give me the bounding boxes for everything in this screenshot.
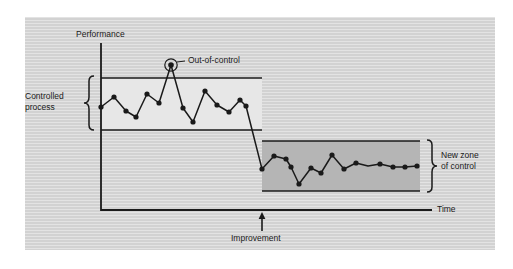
improvement-arrow [259,212,266,231]
controlled-process-label-line2: process [25,102,55,112]
improvement-label: Improvement [231,233,281,244]
new-zone-brace [427,140,437,192]
control-chart [0,0,513,269]
figure-container: Performance Out-of-control Controlled pr… [0,0,513,269]
y-axis-label: Performance [76,29,125,40]
out-of-control-leader [177,61,185,62]
controlled-process-label: Controlled process [25,91,87,113]
out-of-control-label: Out-of-control [188,55,240,66]
new-zone-label-line2: of control [441,161,476,171]
x-axis-label: Time [437,204,456,215]
new-zone-label: New zone of control [441,150,499,172]
new-zone-label-line1: New zone [441,150,479,160]
controlled-process-label-line1: Controlled [25,91,64,101]
